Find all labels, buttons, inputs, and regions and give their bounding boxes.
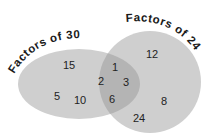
number-12: 12 (146, 48, 158, 60)
number-8: 8 (161, 95, 167, 107)
number-1: 1 (112, 61, 118, 73)
number-10: 10 (74, 94, 86, 106)
number-3: 3 (123, 76, 129, 88)
number-6: 6 (109, 93, 115, 105)
number-15: 15 (63, 59, 75, 71)
venn-diagram: Factors of 30 Factors of 24 15 5 10 1 2 … (0, 0, 216, 140)
number-24: 24 (133, 112, 145, 124)
number-2: 2 (98, 75, 104, 87)
number-5: 5 (54, 90, 60, 102)
